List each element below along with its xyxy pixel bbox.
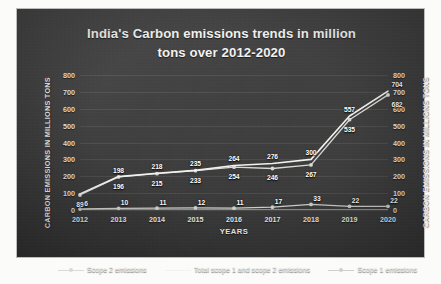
data-point-label: 17 — [275, 198, 282, 205]
x-axis-tick-label: 2012 — [72, 216, 88, 224]
series-marker — [78, 207, 82, 211]
legend-label: Scope 2 emissions — [87, 266, 147, 274]
data-point-label: 22 — [390, 197, 397, 204]
legend-item[interactable]: Scope 1 emissions — [328, 266, 417, 274]
x-axis-tick-label: 2018 — [303, 216, 319, 224]
legend-label: Scope 1 emissions — [357, 266, 417, 274]
data-point-label: 276 — [267, 153, 278, 160]
data-point-label: 267 — [305, 170, 316, 177]
y-axis-tick-label: 0 — [71, 206, 75, 215]
series-marker — [194, 206, 198, 210]
y-axis-tick-label: 300 — [393, 155, 405, 164]
gridline — [80, 210, 388, 211]
x-axis-tick-label: 2020 — [380, 216, 396, 224]
x-axis-tick-label: 2017 — [265, 216, 281, 224]
series-marker — [271, 205, 275, 209]
data-point-label: 254 — [228, 173, 239, 180]
data-point-label: 557 — [344, 106, 355, 113]
legend-item[interactable]: Scope 2 emissions — [58, 266, 147, 274]
y-axis-tick-label: 400 — [393, 139, 405, 148]
y-axis-tick-label: 600 — [63, 105, 75, 114]
chart-title: India's Carbon emissions trends in milli… — [49, 25, 394, 62]
data-point-label: 535 — [344, 125, 355, 132]
legend-swatch-icon — [328, 267, 354, 274]
data-point-label: 89 — [76, 200, 83, 207]
y-axis-tick-label: 300 — [63, 155, 75, 164]
chart-legend: Scope 2 emissionsTotal scope 1 and scope… — [50, 262, 425, 278]
plot-area: 0100200300400500600700800 01002003004005… — [80, 75, 388, 210]
y-axis-tick-label: 400 — [63, 139, 75, 148]
chart-slide-panel: India's Carbon emissions trends in milli… — [17, 9, 424, 257]
x-axis-tick-label: 2016 — [226, 216, 242, 224]
y-axis-tick-label: 700 — [63, 88, 75, 97]
data-point-label: 218 — [151, 163, 162, 170]
series-marker — [155, 206, 159, 210]
x-axis-tick-label: 2019 — [342, 216, 358, 224]
series-marker — [309, 163, 313, 167]
series-marker — [271, 167, 275, 171]
series-marker — [348, 204, 352, 208]
x-axis-tick-label: 2013 — [111, 216, 127, 224]
x-axis-title: YEARS — [80, 227, 388, 236]
y-axis-tick-label: 0 — [393, 206, 397, 215]
series-marker — [232, 206, 236, 210]
data-point-label: 246 — [267, 174, 278, 181]
y-axis-tick-label: 700 — [393, 88, 405, 97]
series-lines — [80, 75, 388, 210]
y-axis-tick-label: 500 — [63, 122, 75, 131]
legend-swatch-icon — [58, 267, 84, 274]
series-line — [80, 95, 388, 195]
y-axis-tick-label: 200 — [63, 172, 75, 181]
y-axis-title-right: CARBON EMISSIONS IN MILLIONS TONS — [421, 77, 430, 228]
data-point-label: 11 — [236, 199, 243, 206]
data-point-label: 11 — [159, 199, 166, 206]
legend-label: Total scope 1 and scope 2 emissions — [194, 266, 310, 274]
legend-item[interactable]: Total scope 1 and scope 2 emissions — [165, 266, 310, 274]
series-marker — [386, 93, 390, 97]
data-point-label: 704 — [391, 81, 402, 88]
series-marker — [386, 204, 390, 208]
data-point-label: 215 — [151, 179, 162, 186]
data-point-label: 233 — [190, 176, 201, 183]
chart-title-line-1: India's Carbon emissions trends in milli… — [87, 26, 356, 41]
data-point-label: 300 — [305, 149, 316, 156]
data-point-label: 264 — [228, 155, 239, 162]
x-axis-tick-label: 2015 — [188, 216, 204, 224]
chart-title-line-2: tons over 2012-2020 — [158, 45, 286, 60]
y-axis-tick-label: 800 — [63, 71, 75, 80]
data-point-label: 22 — [352, 197, 359, 204]
data-point-label: 196 — [113, 182, 124, 189]
y-axis-tick-label: 800 — [393, 71, 405, 80]
data-point-label: 33 — [313, 195, 320, 202]
screenshot-root: India's Carbon emissions trends in milli… — [0, 0, 441, 284]
x-axis-tick-label: 2014 — [149, 216, 165, 224]
data-point-label: 12 — [198, 198, 205, 205]
y-axis-tick-label: 500 — [393, 122, 405, 131]
legend-swatch-icon — [165, 267, 191, 274]
y-axis-tick-label: 100 — [63, 189, 75, 198]
data-point-label: 682 — [391, 100, 402, 107]
data-point-label: 6 — [84, 199, 88, 206]
data-point-label: 235 — [190, 160, 201, 167]
data-point-label: 10 — [121, 199, 128, 206]
series-marker — [117, 206, 121, 210]
data-point-label: 198 — [113, 166, 124, 173]
y-axis-title-left: CARBON EMISSIONS IN MILLIONS TONS — [43, 77, 52, 228]
y-axis-tick-label: 200 — [393, 172, 405, 181]
series-marker — [309, 203, 313, 207]
